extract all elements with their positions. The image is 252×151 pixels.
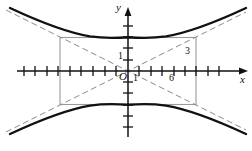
x-tick-label-1: 1 [133, 73, 138, 83]
origin-label: O [119, 71, 127, 82]
rectangle-height-label-3: 3 [185, 46, 190, 56]
hyperbola-figure: y x O 1 1 6 3 [0, 0, 252, 151]
y-axis-label: y [116, 2, 121, 13]
y-axis-arrowhead [125, 7, 132, 16]
x-axis-label: x [240, 74, 245, 85]
y-tick-label-1: 1 [118, 51, 123, 61]
x-tick-label-6: 6 [169, 73, 174, 83]
